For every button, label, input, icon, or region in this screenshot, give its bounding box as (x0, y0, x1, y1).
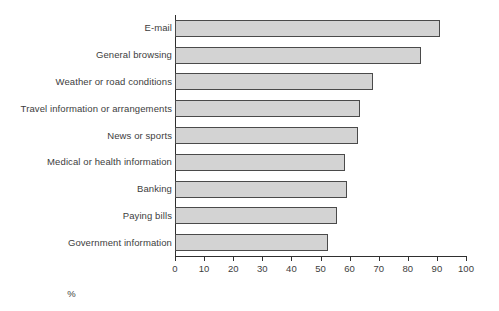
bar (175, 47, 421, 64)
x-tick-label: 20 (228, 263, 239, 275)
category-label: Weather or road conditions (0, 76, 172, 87)
bar (175, 207, 337, 224)
category-label: General browsing (0, 49, 172, 60)
x-tick (175, 256, 176, 261)
bar (175, 100, 360, 117)
x-tick (233, 256, 234, 261)
x-tick (262, 256, 263, 261)
category-label: Paying bills (0, 210, 172, 221)
x-tick (321, 256, 322, 261)
x-tick-label: 100 (458, 263, 474, 275)
x-axis-tick-labels: 0102030405060708090100 (175, 263, 466, 277)
plot-area (175, 15, 466, 256)
bar (175, 127, 358, 144)
x-tick-label: 40 (286, 263, 297, 275)
bar-chart: E-mailGeneral browsingWeather or road co… (0, 0, 499, 311)
x-tick (350, 256, 351, 261)
bar (175, 234, 328, 251)
x-tick-label: 0 (172, 263, 177, 275)
category-label: Medical or health information (0, 156, 172, 167)
x-axis-tick-marks (175, 256, 466, 261)
category-label: Travel information or arrangements (0, 103, 172, 114)
x-tick (437, 256, 438, 261)
x-axis-title: % (0, 288, 499, 299)
category-label: News or sports (0, 130, 172, 141)
bar (175, 73, 373, 90)
category-label: Banking (0, 183, 172, 194)
x-tick (291, 256, 292, 261)
category-label: Government information (0, 237, 172, 248)
x-tick-label: 30 (257, 263, 268, 275)
x-tick-label: 80 (403, 263, 414, 275)
x-tick (408, 256, 409, 261)
x-tick-label: 50 (315, 263, 326, 275)
x-axis-title-text: % (67, 288, 75, 299)
bar (175, 181, 347, 198)
x-tick (379, 256, 380, 261)
bar (175, 154, 345, 171)
x-tick-label: 90 (432, 263, 443, 275)
x-tick-label: 10 (199, 263, 210, 275)
category-axis-labels: E-mailGeneral browsingWeather or road co… (0, 15, 172, 256)
x-tick (466, 256, 467, 261)
category-label: E-mail (0, 22, 172, 33)
x-tick-label: 60 (344, 263, 355, 275)
x-tick-label: 70 (373, 263, 384, 275)
x-tick (204, 256, 205, 261)
bar (175, 20, 440, 37)
